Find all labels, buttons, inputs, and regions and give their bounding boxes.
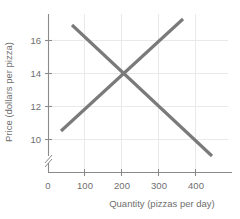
y-tick-label-16: 16 <box>30 35 41 46</box>
y-tick-label-12: 12 <box>30 101 41 112</box>
y-tick-label-14: 14 <box>30 68 41 79</box>
x-tick-label-300: 300 <box>151 180 167 191</box>
supply-demand-chart: 16 14 12 10 0 100 200 300 400 Quantity (… <box>0 0 240 219</box>
chart-canvas: 16 14 12 10 0 100 200 300 400 Quantity (… <box>0 0 240 219</box>
demand-curve <box>72 25 212 156</box>
gridlines <box>48 14 228 172</box>
x-tick-label-0: 0 <box>45 180 50 191</box>
y-tick-label-10: 10 <box>30 134 41 145</box>
curves <box>61 19 212 156</box>
x-tick-label-400: 400 <box>188 180 204 191</box>
y-axis-title: Price (dollars per pizza) <box>3 42 14 142</box>
x-tick-label-100: 100 <box>77 180 93 191</box>
x-tick-labels: 0 100 200 300 400 <box>45 180 204 191</box>
x-axis-title: Quantity (pizzas per day) <box>109 198 215 209</box>
y-tick-labels: 16 14 12 10 <box>30 35 41 145</box>
x-tick-label-200: 200 <box>114 180 130 191</box>
